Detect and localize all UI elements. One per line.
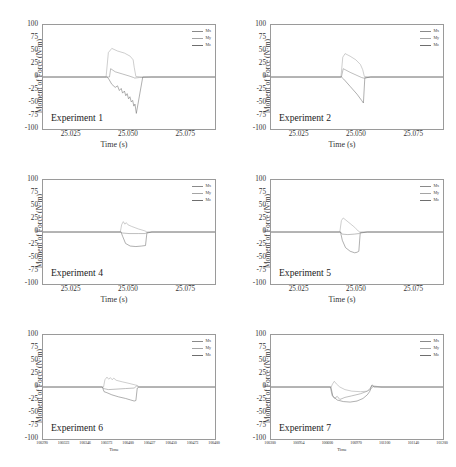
plot-area: MxMyMzExperiment 1 [42,24,216,130]
y-tick-label: -50 [256,408,266,416]
y-tick-label: -25 [28,395,38,403]
legend: MxMyMz [420,183,439,203]
x-tick-label: 100970 [350,440,361,445]
legend-swatch-icon [192,45,203,46]
y-tick-label: 100 [255,330,266,338]
y-tick-label: -50 [28,98,38,106]
legend-item-mx: Mx [192,183,211,189]
panel-experiment-2: Moment of Force (N·m)1007550250-25-50-75… [228,0,456,155]
y-tick-label: 75 [259,33,266,41]
legend-label: My [205,345,211,351]
y-tick-label: -75 [256,421,266,429]
plot-area: MxMyMzExperiment 4 [42,179,216,285]
legend-swatch-icon [420,31,431,32]
legend-label: My [205,190,211,196]
panel-title: Experiment 4 [51,267,103,278]
y-tick-label: -25 [28,240,38,248]
legend-item-my: My [420,35,439,41]
y-tick-label: -50 [28,408,38,416]
legend-label: Mx [433,28,439,34]
y-tick-label: 0 [34,382,38,390]
x-tick-label: 101140 [408,440,419,445]
y-tick-label: 100 [27,175,38,183]
y-tick-label: -50 [256,253,266,261]
y-tick-label: 25 [259,369,266,377]
legend-swatch-icon [420,200,431,201]
series-line-mz [43,387,215,401]
legend-label: Mx [433,338,439,344]
y-tick-label: 100 [27,20,38,28]
legend-label: My [433,345,439,351]
legend-item-mx: Mx [420,28,439,34]
legend: MxMyMz [420,338,439,358]
plot-area: MxMyMzExperiment 6 [42,334,216,440]
legend: MxMyMz [420,28,439,48]
y-tick-label: 100 [27,330,38,338]
y-tick-label: -75 [28,421,38,429]
series-line-mx [43,386,215,390]
x-tick-label: 25.075 [403,130,423,138]
legend-label: Mz [205,42,210,48]
legend-label: Mz [205,197,210,203]
series-line-mz [43,232,215,247]
panel-title: Experiment 2 [279,112,331,123]
y-tick-label: -50 [256,98,266,106]
x-tick-label: 100450 [165,440,176,445]
figure-grid: Moment of Force (N·m)1007550250-25-50-75… [0,0,456,467]
x-tick-label: 100400 [122,440,133,445]
y-tick-label: -50 [28,253,38,261]
panel-experiment-6: Moment of Force (N·m)1007550250-25-50-75… [0,310,228,467]
x-tick-label: 100427 [144,440,155,445]
panel-title: Experiment 1 [51,112,103,123]
y-tick-label: -25 [256,395,266,403]
y-tick-label: 100 [255,20,266,28]
y-tick-label: 0 [262,382,266,390]
series-line-my [43,377,215,387]
legend-item-my: My [192,345,211,351]
legend: MxMyMz [192,338,211,358]
y-tick-label: 25 [31,59,38,67]
legend-swatch-icon [192,193,203,194]
x-axis-label: Time [228,447,456,452]
x-tick-label: 25.050 [118,130,138,138]
x-tick-label: 100600 [322,440,333,445]
y-tick-label: -25 [28,85,38,93]
series-line-my [271,381,443,391]
legend-swatch-icon [420,45,431,46]
y-tick-label: 50 [259,201,266,209]
y-tick-label: -75 [28,111,38,119]
series-line-my [43,48,215,77]
series-line-mz [271,77,443,103]
x-tick-label: 25.050 [346,130,366,138]
y-tick-label: 75 [31,33,38,41]
y-tick-label: -75 [28,266,38,274]
panel-experiment-5: Moment of Force (N·m)1007550250-25-50-75… [228,155,456,310]
x-tick-label: 25.050 [118,285,138,293]
legend: MxMyMz [192,183,211,203]
legend-swatch-icon [420,193,431,194]
y-tick-label: 100 [255,175,266,183]
legend-label: Mz [433,352,438,358]
legend-swatch-icon [192,200,203,201]
legend-label: Mx [205,338,211,344]
legend-item-mz: Mz [420,42,439,48]
legend-swatch-icon [420,348,431,349]
legend-item-mz: Mz [192,197,211,203]
panel-experiment-1: Moment of Force (N·m)1007550250-25-50-75… [0,0,228,155]
plot-area: MxMyMzExperiment 2 [270,24,444,130]
x-tick-label: 100323 [58,440,69,445]
legend-item-mz: Mz [420,197,439,203]
y-tick-label: 50 [31,201,38,209]
x-tick-label: 25.075 [175,130,195,138]
legend-label: My [433,190,439,196]
y-tick-label: 50 [31,356,38,364]
x-tick-label: 100373 [101,440,112,445]
series-line-mz [271,232,443,253]
legend-label: Mz [433,197,438,203]
legend-swatch-icon [192,38,203,39]
y-tick-label: 75 [31,343,38,351]
legend-label: Mx [205,183,211,189]
panel-title: Experiment 6 [51,422,103,433]
x-tick-label: 100290 [36,440,47,445]
legend-label: My [433,35,439,41]
